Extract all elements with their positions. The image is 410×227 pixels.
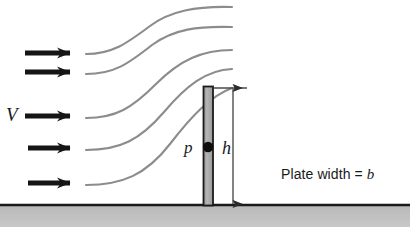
- pressure-point-dot: [203, 142, 213, 152]
- velocity-label: V: [6, 105, 18, 124]
- plate-width-symbol: b: [367, 166, 375, 182]
- plate-width-text: Plate width =: [281, 166, 367, 182]
- inflow-arrows-group: [25, 53, 70, 183]
- streamline-1: [86, 7, 232, 54]
- ground-band: [0, 206, 410, 227]
- diagram-canvas: [0, 0, 410, 227]
- plate-width-label: Plate width = b: [281, 167, 374, 182]
- height-label: h: [222, 139, 231, 157]
- flow-over-plate-figure: V p h Plate width = b: [0, 0, 410, 227]
- ground-group: [0, 205, 410, 227]
- pressure-label: p: [184, 139, 193, 156]
